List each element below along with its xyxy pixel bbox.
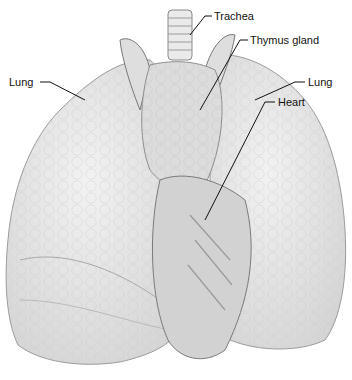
label-trachea: Trachea bbox=[214, 10, 254, 22]
organ-illustration bbox=[0, 0, 352, 380]
label-left-lung: Lung bbox=[9, 76, 33, 88]
thymus-gland bbox=[142, 62, 222, 190]
label-right-lung: Lung bbox=[308, 76, 332, 88]
anatomy-diagram: Trachea Thymus gland Lung Lung Heart bbox=[0, 0, 352, 380]
label-thymus-gland: Thymus gland bbox=[250, 34, 319, 46]
label-heart: Heart bbox=[278, 96, 305, 108]
